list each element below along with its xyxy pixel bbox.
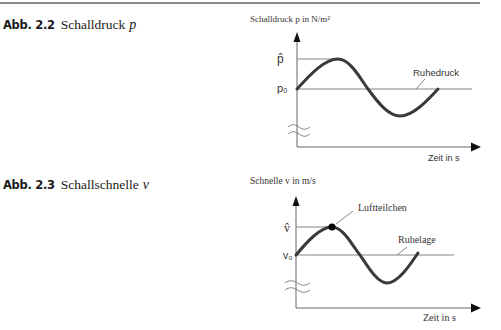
x-axis-label: Zeit in s: [428, 153, 460, 163]
baseline-label: v₀: [283, 249, 293, 261]
axis-break-icon: [285, 288, 310, 293]
axis-break-icon: [288, 125, 310, 130]
x-axis-arrow-icon: [471, 143, 481, 152]
amplitude-label: v̂: [284, 221, 290, 235]
y-axis-label: Schalldruck p in N/m²: [250, 14, 330, 24]
annotation-luftteilchen: Luftteilchen: [358, 202, 407, 213]
baseline-label: p₀: [277, 82, 288, 94]
chart-schalldruck: Schalldruck p in N/m² p̂ p₀ Ruhedruck Ze…: [250, 14, 481, 163]
air-particle-marker: [328, 223, 335, 230]
chart-schallschnelle: Schnelle v in m/s v̂ v₀ Luftteilchen Ruh…: [250, 176, 481, 323]
annotation-leader: [416, 79, 425, 89]
axis-break-icon: [288, 132, 310, 137]
figures-canvas: Schalldruck p in N/m² p̂ p₀ Ruhedruck Ze…: [0, 0, 501, 330]
y-axis-arrow-icon: [294, 32, 301, 42]
annotation-ruhelage: Ruhelage: [398, 234, 436, 245]
annotation-leader: [336, 211, 353, 224]
annotation-ruhedruck: Ruhedruck: [413, 67, 459, 78]
y-axis-label: Schnelle v in m/s: [250, 176, 316, 186]
x-axis-arrow-icon: [471, 304, 481, 313]
annotation-leader: [397, 247, 407, 255]
amplitude-label: p̂: [277, 52, 284, 66]
x-axis-label: Zeit in s: [423, 312, 456, 323]
y-axis-arrow-icon: [293, 196, 300, 206]
axis-break-icon: [285, 281, 310, 286]
